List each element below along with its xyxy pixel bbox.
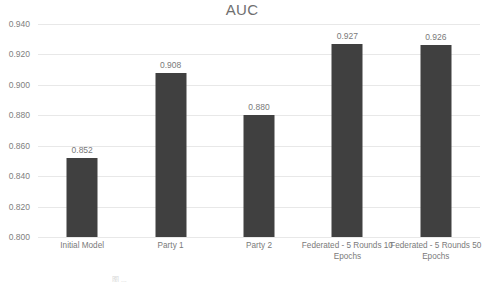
x-axis-category-label: Initial Model — [38, 240, 126, 251]
bar[interactable] — [420, 45, 451, 237]
y-axis-tick-label: 0.920 — [0, 50, 30, 58]
y-axis-tick-label: 0.800 — [0, 233, 30, 241]
auc-bar-chart: AUC 0.9400.9200.9000.8800.8600.8400.8200… — [0, 0, 484, 282]
x-axis-category-labels: Initial ModelParty 1Party 2Federated - 5… — [38, 240, 480, 280]
bar-group: 0.908 — [126, 24, 214, 237]
y-axis-tick-label: 0.880 — [0, 111, 30, 119]
bar[interactable] — [155, 73, 186, 237]
y-axis-tick-label: 0.860 — [0, 142, 30, 150]
y-axis-tick-label: 0.840 — [0, 172, 30, 180]
bar[interactable] — [243, 115, 274, 237]
plot-area: 0.9400.9200.9000.8800.8600.8400.8200.800… — [38, 24, 480, 237]
x-axis-category-label: Party 2 — [215, 240, 303, 251]
chart-title: AUC — [0, 1, 484, 19]
y-axis-tick-label: 0.900 — [0, 81, 30, 89]
bar-value-label: 0.908 — [160, 61, 181, 70]
bar[interactable] — [332, 44, 363, 237]
y-axis-tick-label: 0.940 — [0, 20, 30, 28]
x-axis-label-line: Party 2 — [215, 240, 303, 251]
bar-value-label: 0.927 — [337, 32, 358, 41]
bar-group: 0.852 — [38, 24, 126, 237]
cut-off-caption: 图 ... — [112, 276, 292, 282]
x-axis-label-line: Federated - 5 Rounds 50 — [384, 240, 484, 251]
gridline — [38, 237, 480, 238]
x-axis-category-label: Federated - 5 Rounds 50Epochs — [384, 240, 484, 262]
y-axis-tick-label: 0.820 — [0, 203, 30, 211]
bar-value-label: 0.852 — [72, 146, 93, 155]
bar-group: 0.927 — [303, 24, 391, 237]
x-axis-label-line: Epochs — [384, 251, 484, 262]
bar-value-label: 0.926 — [425, 33, 446, 42]
x-axis-category-label: Party 1 — [126, 240, 214, 251]
bar-group: 0.926 — [392, 24, 480, 237]
bar[interactable] — [67, 158, 98, 237]
bar-value-label: 0.880 — [248, 103, 269, 112]
bars: 0.8520.9080.8800.9270.926 — [38, 24, 480, 237]
x-axis-label-line: Party 1 — [126, 240, 214, 251]
x-axis-label-line: Initial Model — [38, 240, 126, 251]
bar-group: 0.880 — [215, 24, 303, 237]
